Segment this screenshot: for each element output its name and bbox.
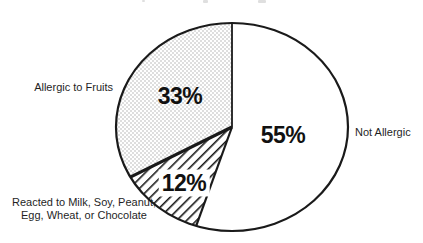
cropped-title-remnant <box>258 0 266 3</box>
cropped-title-remnant <box>142 0 145 2</box>
slice-label-allergic-fruits: Allergic to Fruits <box>0 81 113 94</box>
cropped-title-remnant <box>203 0 208 3</box>
pct-label-12: 12% <box>159 170 210 197</box>
slice-label-reacted-foods: Reacted to Milk, Soy, Peanut, Egg, Wheat… <box>12 196 156 222</box>
pct-label-33: 33% <box>158 83 203 110</box>
slice-label-reacted-line2: Egg, Wheat, or Chocolate <box>12 209 156 222</box>
pct-label-55: 55% <box>261 122 306 149</box>
slice-label-not-allergic: Not Allergic <box>355 126 411 139</box>
pie-chart-figure: Allergic to Fruits Not Allergic Reacted … <box>0 0 423 243</box>
slice-label-reacted-line1: Reacted to Milk, Soy, Peanut, <box>12 196 156 209</box>
